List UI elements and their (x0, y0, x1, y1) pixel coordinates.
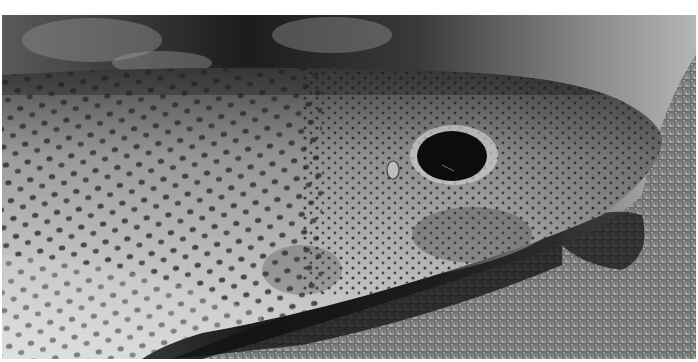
shark-illustration (2, 15, 696, 359)
spiracle (387, 161, 399, 179)
shark-eye (410, 125, 498, 185)
shark-photo (2, 15, 696, 359)
